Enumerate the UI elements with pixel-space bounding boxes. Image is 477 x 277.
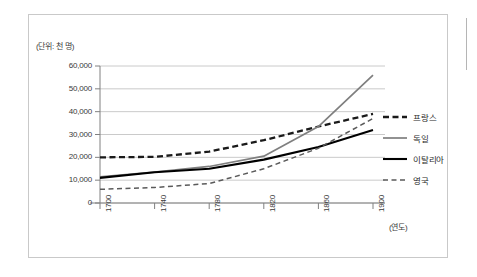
line-chart: (단위: 천 명) 010,00020,00030,00040,00050,00… [28,14,448,258]
y-tick-label: 50,000 [48,84,92,93]
legend-swatch-icon [383,133,407,143]
legend-item-4[interactable]: 영국 [383,169,475,190]
x-tick-label: 1900 [377,195,386,212]
y-tick-label: 30,000 [48,130,92,139]
legend-swatch-icon [383,112,407,122]
legend-swatch-icon [383,154,407,164]
x-tick-marks [100,203,373,209]
legend-label: 프랑스 [413,111,436,123]
y-tick-label: 10,000 [48,175,92,184]
x-tick-label: 1780 [213,195,222,212]
legend-item-3[interactable]: 이탈리아 [383,148,475,169]
legend-label: 이탈리아 [413,153,444,165]
y-tick-label: 60,000 [48,61,92,70]
x-axis-unit-label: (연도) [389,221,408,232]
chart-legend: 프랑스독일이탈리아영국 [383,106,475,190]
legend-label: 영국 [413,174,429,186]
y-tick-marks [95,66,100,203]
y-tick-label: 20,000 [48,152,92,161]
y-tick-label: 40,000 [48,107,92,116]
x-tick-label: 1740 [159,195,168,212]
legend-label: 독일 [413,132,429,144]
legend-item-1[interactable]: 프랑스 [383,106,475,127]
legend-swatch-icon [383,175,407,185]
series-lines [100,75,373,189]
x-tick-label: 1700 [104,195,113,212]
legend-item-2[interactable]: 독일 [383,127,475,148]
y-tick-label: 0 [48,198,92,207]
page-edge-line [466,18,467,70]
gridlines [100,66,385,203]
chart-page: (단위: 천 명) 010,00020,00030,00040,00050,00… [0,0,477,277]
x-tick-label: 1860 [322,195,331,212]
x-tick-label: 1820 [268,195,277,212]
